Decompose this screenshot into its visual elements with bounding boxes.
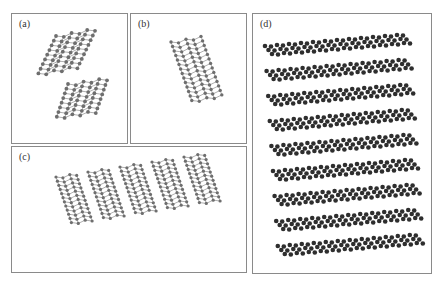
graphene-stack-c [12,147,247,273]
graphene-multilayer-d [253,14,432,274]
graphene-sheet-b [131,14,247,144]
graphene-sheet-a [12,14,128,144]
panel-b: (b) [130,13,247,144]
panel-d: (d) [252,13,432,274]
panel-c: (c) [11,146,247,273]
panel-a: (a) [11,13,128,144]
